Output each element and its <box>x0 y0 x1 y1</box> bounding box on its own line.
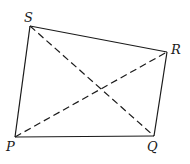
edge-pq <box>15 136 154 137</box>
vertex-label-r: R <box>170 42 181 57</box>
quadrilateral-diagram: S R P Q <box>0 0 190 164</box>
vertex-label-q: Q <box>147 139 158 154</box>
vertex-label-s: S <box>24 10 33 25</box>
diagonal-pr <box>15 52 167 137</box>
edge-rs <box>30 26 167 52</box>
vertex-label-p: P <box>5 139 15 154</box>
diagonal-sq <box>30 26 154 136</box>
edge-sp <box>15 26 30 137</box>
edge-qr <box>154 52 167 136</box>
